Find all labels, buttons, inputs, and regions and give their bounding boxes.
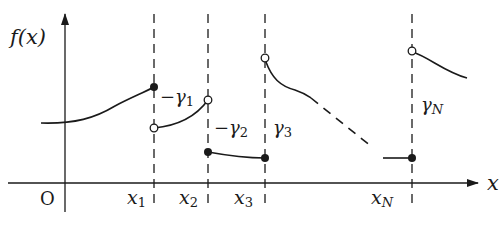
discontinuity-lines [154,14,412,208]
jump-label-gamma3: γ3 [273,117,292,140]
origin-label: O [40,188,55,209]
filled-dot-x1 [150,83,158,91]
piecewise-function-diagram: f(x) x O x1 x2 x3 xN −γ1 −γ2 γ3 γN [0,0,504,235]
curve-segment-0 [41,87,154,123]
filled-dot-x3 [261,154,269,162]
curve-segment-3 [266,62,311,98]
curve-segment-2 [208,152,265,158]
filled-dot-xN [408,154,416,162]
jump-label-gamma2: −γ2 [214,117,248,140]
y-axis-label: f(x) [8,25,46,49]
tick-label-xN: xN [371,186,394,210]
tick-label-x2: x2 [179,186,198,210]
open-dot-x3 [261,54,269,62]
curve-segment-3-dashed [311,98,372,147]
tick-label-x3: x3 [234,186,253,210]
x-axis-label: x [487,171,499,195]
function-curves [41,52,467,158]
curve-segment-N [413,52,467,78]
jump-label-gammaN: γN [421,94,444,117]
open-dot-x2 [204,96,212,104]
open-dot-xN [408,47,416,55]
tick-label-x1: x1 [127,186,146,210]
filled-dot-x2 [204,148,212,156]
jump-label-gamma1: −γ1 [160,86,194,109]
open-dot-x1 [150,124,158,132]
